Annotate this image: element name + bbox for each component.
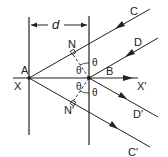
axis-arrow-icon bbox=[123, 75, 133, 81]
label-A: A bbox=[21, 64, 29, 76]
arrow-D-icon bbox=[125, 49, 135, 57]
label-N: N bbox=[68, 38, 76, 50]
point-A bbox=[27, 76, 31, 80]
arrow-Cprime-icon bbox=[109, 121, 118, 129]
ray-B-upper bbox=[89, 38, 158, 78]
label-D: D bbox=[134, 36, 142, 48]
label-theta-lower-right: θ bbox=[92, 87, 98, 98]
label-X-prime: X′ bbox=[137, 80, 146, 92]
label-C-prime: C′ bbox=[128, 146, 138, 157]
label-theta-lower-left: θ bbox=[76, 81, 82, 92]
arrow-C-icon bbox=[115, 21, 125, 29]
reflection-diagram: d A X B X′ C D D′ C′ N N′ θ θ θ θ θ bbox=[0, 0, 168, 157]
arrow-Dprime-icon bbox=[118, 92, 127, 99]
label-C: C bbox=[130, 5, 138, 17]
label-N-prime: N′ bbox=[64, 104, 74, 116]
label-X: X bbox=[14, 80, 22, 92]
label-B: B bbox=[106, 65, 113, 77]
point-B bbox=[87, 76, 91, 80]
label-D-prime: D′ bbox=[133, 108, 143, 120]
label-theta-upper-right: θ bbox=[92, 57, 98, 68]
label-theta-upper-left: θ bbox=[76, 65, 82, 76]
label-d: d bbox=[52, 17, 60, 32]
